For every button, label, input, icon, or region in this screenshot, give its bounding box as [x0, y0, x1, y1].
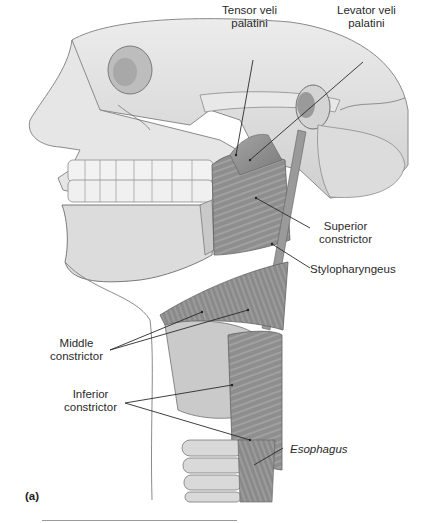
head-neck-illustration	[0, 0, 423, 523]
label-levator-veli-palatini: Levator veli palatini	[337, 4, 396, 30]
label-esophagus: Esophagus	[290, 443, 348, 456]
divider-line	[42, 520, 237, 521]
label-stylopharyngeus: Stylopharyngeus	[310, 263, 396, 276]
label-middle-constrictor: Middle constrictor	[50, 337, 103, 363]
panel-label: (a)	[25, 490, 39, 502]
anatomy-figure: Tensor veli palatini Levator veli palati…	[0, 0, 423, 523]
label-tensor-veli-palatini: Tensor veli palatini	[222, 4, 277, 30]
label-inferior-constrictor: Inferior constrictor	[64, 388, 117, 414]
teeth	[68, 160, 213, 202]
label-superior-constrictor: Superior constrictor	[319, 220, 372, 246]
neck-outline	[65, 262, 152, 500]
mandible	[62, 205, 215, 282]
